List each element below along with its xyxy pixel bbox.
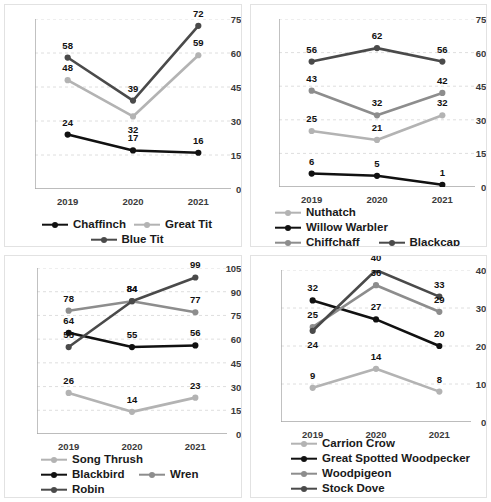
y-tick-label: 45 [214,357,241,368]
y-tick-label: 40 [461,265,486,276]
y-tick-label: 45 [463,81,486,92]
legend-label: Stock Dove [322,481,385,496]
legend-label: Blackbird [72,467,124,482]
legend-swatch-icon [275,237,301,247]
x-tick-label: 2019 [301,194,322,205]
legend-item-nuthatch[interactable]: Nuthatch [275,205,379,220]
y-tick-label: 105 [214,263,241,274]
legend-label: Chaffinch [73,217,126,232]
legend-swatch-icon [291,468,317,479]
x-tick-label: 2021 [188,196,209,207]
legend-label: Willow Warbler [306,220,388,235]
legend-label: Chiffchaff [306,235,360,247]
legend-item-willow-warbler[interactable]: Willow Warbler [275,220,388,235]
x-tick-label: 2020 [366,194,387,205]
y-tick-label: 0 [216,184,241,195]
legend-label: Nuthatch [306,205,356,220]
legend-label: Blackcap [410,235,461,247]
legend-1: ChaffinchGreat TitBlue Tit [5,217,241,247]
legend-item-great-spotted-woodpecker[interactable]: Great Spotted Woodpecker [291,451,482,466]
legend-item-great-tit[interactable]: Great Tit [134,217,212,232]
legend-swatch-icon [291,438,317,449]
legend-label: Blue Tit [122,232,164,247]
y-tick-label: 60 [216,48,241,59]
legend-label: Carrion Crow [322,436,395,451]
legend-swatch-icon [379,237,405,247]
chart-panel-1: 0153045607520192020202124171648325958397… [4,4,242,247]
legend-swatch-icon [291,483,317,494]
legend-item-stock-dove[interactable]: Stock Dove [291,481,482,496]
y-tick-label: 75 [214,310,241,321]
chart-grid: 0153045607520192020202124171648325958397… [0,0,491,502]
legend-swatch-icon [134,219,160,230]
y-tick-label: 0 [463,182,486,193]
y-tick-label: 75 [216,14,241,25]
chart-panel-4: 0102030402019202020219148322720253629244… [250,255,487,498]
y-tick-label: 10 [461,379,486,390]
legend-label: Wren [170,467,199,482]
legend-label: Woodpigeon [322,466,391,481]
y-tick-label: 30 [216,116,241,127]
y-tick-label: 90 [214,286,241,297]
y-tick-label: 75 [463,14,486,25]
y-tick-label: 60 [214,334,241,345]
legend-item-robin[interactable]: Robin [41,482,139,497]
legend-item-song-thrush[interactable]: Song Thrush [41,452,143,467]
legend-label: Great Tit [165,217,212,232]
y-tick-label: 30 [463,114,486,125]
legend-4: Carrion CrowGreat Spotted WoodpeckerWood… [251,436,486,498]
y-tick-label: 30 [461,303,486,314]
legend-swatch-icon [275,207,301,218]
y-tick-label: 60 [463,47,486,58]
x-tick-label: 2021 [185,441,206,452]
legend-swatch-icon [291,453,317,464]
legend-swatch-icon [41,469,67,480]
chart-panel-3: 0153045607590105201920202021261423645556… [4,255,242,498]
x-tick-label: 2020 [121,441,142,452]
legend-label: Robin [72,482,105,497]
legend-item-blue-tit[interactable]: Blue Tit [91,232,164,247]
legend-label: Song Thrush [72,452,143,467]
y-tick-label: 0 [214,429,241,440]
legend-3: Song ThrushBlackbirdWrenRobin [5,452,241,498]
legend-item-chaffinch[interactable]: Chaffinch [42,217,126,232]
legend-swatch-icon [91,234,117,245]
legend-label: Great Spotted Woodpecker [322,451,470,466]
x-tick-label: 2021 [432,194,453,205]
y-tick-label: 15 [463,148,486,159]
y-tick-label: 15 [216,150,241,161]
legend-swatch-icon [41,484,67,495]
y-axis-labels-1: 01530456075 [5,5,241,246]
y-tick-label: 30 [214,381,241,392]
legend-swatch-icon [42,219,68,230]
legend-swatch-icon [139,469,165,480]
legend-item-wren[interactable]: Wren [139,467,237,482]
legend-2: NuthatchWillow WarblerChiffchaffBlackcap [251,205,486,247]
legend-item-carrion-crow[interactable]: Carrion Crow [291,436,482,451]
y-tick-label: 45 [216,82,241,93]
legend-item-blackbird[interactable]: Blackbird [41,467,139,482]
x-tick-label: 2020 [122,196,143,207]
legend-swatch-icon [41,454,67,465]
x-tick-label: 2019 [57,196,78,207]
y-tick-label: 0 [461,417,486,428]
y-tick-label: 15 [214,405,241,416]
y-tick-label: 20 [461,341,486,352]
legend-swatch-icon [275,222,301,233]
legend-item-woodpigeon[interactable]: Woodpigeon [291,466,482,481]
legend-item-chiffchaff[interactable]: Chiffchaff [275,235,379,247]
chart-panel-2: 0153045607520192020202125213265143324256… [250,4,487,247]
legend-item-blackcap[interactable]: Blackcap [379,235,483,247]
x-tick-label: 2019 [58,441,79,452]
